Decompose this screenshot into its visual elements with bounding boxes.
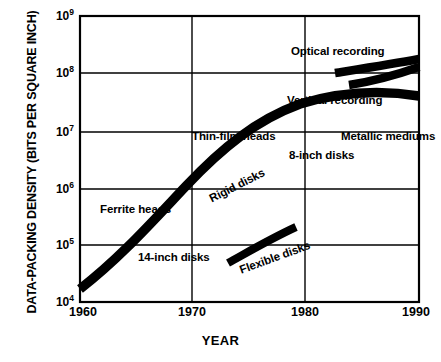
chart-root: DATA-PACKING DENSITY (BITS PER SQUARE IN… — [0, 0, 441, 362]
annotation-metallic-mediums: Metallic mediums — [341, 130, 435, 142]
annotation-8-inch-disks: 8-inch disks — [289, 149, 354, 161]
annotation-thin-film-heads: Thin-film heads — [192, 130, 275, 142]
annotation-ferrite-heads: Ferrite heads — [100, 203, 171, 215]
annotation-optical-recording: Optical recording — [291, 45, 385, 57]
annotation-14-inch-disks: 14-inch disks — [138, 251, 210, 263]
annotation-vertical-recording: Vertical recording — [287, 94, 382, 106]
